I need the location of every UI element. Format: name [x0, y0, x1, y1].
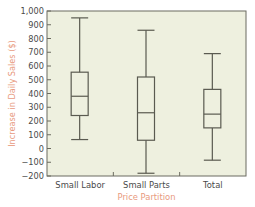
y-tick-label: 400	[28, 89, 44, 99]
x-tick-label: Total	[202, 180, 223, 190]
y-tick-label: 900	[28, 20, 44, 30]
x-tick-label: Small Labor	[55, 180, 105, 190]
x-axis-label: Price Partition	[118, 192, 176, 202]
y-tick-label: 300	[28, 102, 44, 112]
y-tick-label: 1,000	[21, 6, 44, 16]
chart-canvas: −200−10001002003004005006007008009001,00…	[0, 0, 255, 207]
y-tick-label: −100	[22, 157, 45, 167]
y-tick-label: 800	[28, 34, 44, 44]
y-tick-label: 600	[28, 61, 44, 71]
y-axis: −200−10001002003004005006007008009001,00…	[21, 6, 51, 181]
y-tick-label: 700	[28, 47, 44, 57]
y-tick-label: −200	[22, 171, 45, 181]
y-tick-label: 200	[28, 116, 44, 126]
box-plot-chart: −200−10001002003004005006007008009001,00…	[0, 0, 255, 207]
y-tick-label: 500	[28, 75, 44, 85]
x-tick-label: Small Parts	[123, 180, 170, 190]
y-tick-label: 100	[28, 130, 44, 140]
y-tick-label: 0	[39, 144, 44, 154]
y-axis-label: Increase in Daily Sales ($)	[7, 40, 17, 147]
